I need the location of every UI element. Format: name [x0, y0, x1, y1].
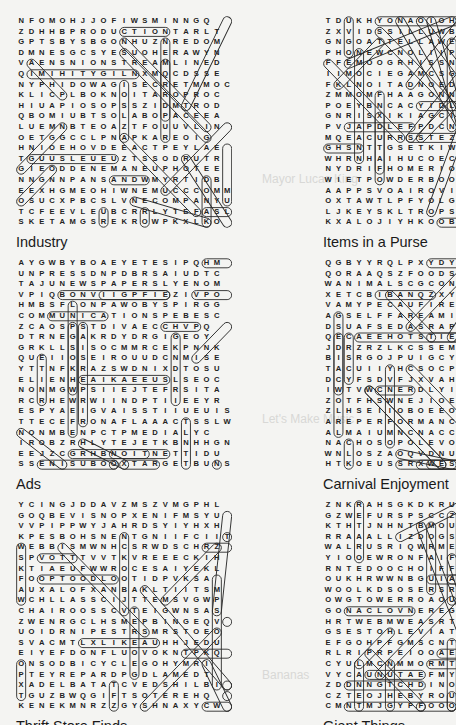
grid-letter: E: [67, 670, 77, 681]
grid-letter: P: [26, 553, 36, 564]
grid-letter: L: [344, 449, 354, 460]
grid-letter: Z: [98, 701, 108, 712]
grid-letter: E: [170, 133, 180, 144]
grid-letter: S: [160, 680, 170, 691]
grid-letter: R: [333, 417, 343, 428]
grid-letter: S: [374, 438, 384, 449]
grid-letter: M: [119, 617, 129, 628]
grid-letter: P: [37, 269, 47, 280]
grid-letter: E: [181, 279, 191, 290]
grid-letter: K: [364, 585, 374, 596]
grid-letter: T: [344, 196, 354, 207]
grid-letter: I: [140, 27, 150, 38]
grid-letter: B: [129, 269, 139, 280]
grid-letter: W: [333, 595, 343, 606]
grid-letter: I: [374, 69, 384, 80]
grid-letter: A: [78, 175, 88, 186]
grid-letter: I: [67, 69, 77, 80]
grid-letter: E: [37, 459, 47, 470]
grid-letter: N: [140, 311, 150, 322]
grid-letter: I: [395, 532, 405, 543]
grid-letter: P: [129, 290, 139, 301]
grid-letter: S: [88, 606, 98, 617]
grid-letter: F: [364, 511, 374, 522]
grid-letter: D: [160, 542, 170, 553]
grid-letter: I: [181, 585, 191, 596]
grid-letter: R: [88, 701, 98, 712]
grid-letter: E: [201, 111, 211, 122]
grid-letter: B: [57, 37, 67, 48]
grid-letter: E: [88, 353, 98, 364]
grid-letter: E: [47, 375, 57, 386]
grid-letter: E: [57, 417, 67, 428]
grid-letter: D: [191, 269, 201, 280]
grid-letter: S: [98, 196, 108, 207]
grid-letter: O: [323, 595, 333, 606]
grid-letter: H: [354, 574, 364, 585]
grid-letter: V: [26, 521, 36, 532]
grid-letter: E: [344, 58, 354, 69]
grid-letter: H: [405, 564, 415, 575]
grid-letter: B: [405, 691, 415, 702]
grid-letter: B: [88, 459, 98, 470]
grid-letter: M: [222, 186, 232, 197]
grid-letter: K: [170, 343, 180, 354]
grid-letter: B: [78, 111, 88, 122]
grid-letter: T: [447, 659, 456, 670]
grid-letter: W: [212, 701, 222, 712]
grid-letter: P: [323, 48, 333, 59]
grid-letter: F: [385, 417, 395, 428]
grid-letter: G: [98, 37, 108, 48]
grid-letter: G: [323, 627, 333, 638]
grid-letter: I: [26, 69, 36, 80]
grid-letter: Y: [364, 207, 374, 218]
grid-letter: Z: [323, 27, 333, 38]
grid-letter: U: [37, 196, 47, 207]
grid-letter: C: [47, 638, 57, 649]
grid-letter: A: [323, 186, 333, 197]
grid-letter: B: [447, 27, 456, 38]
grid-row: OETGGCCLPNAPKAREOIG: [16, 133, 232, 144]
grid-row: EEJZCGRHBNOITNETTIDU: [16, 449, 232, 460]
grid-row: VYCAUNUTAEFMYI: [323, 670, 456, 681]
grid-letter: H: [364, 154, 374, 165]
grid-row: DSUAFSEDASRAPD: [323, 322, 456, 333]
grid-letter: S: [222, 459, 232, 470]
grid-letter: O: [374, 353, 384, 364]
grid-letter: N: [67, 311, 77, 322]
grid-letter: I: [426, 396, 436, 407]
grid-letter: D: [212, 58, 222, 69]
grid-letter: W: [191, 48, 201, 59]
grid-letter: U: [16, 627, 26, 638]
grid-letter: D: [333, 680, 343, 691]
grid-letter: T: [181, 364, 191, 375]
grid-letter: J: [344, 122, 354, 133]
grid-letter: W: [140, 175, 150, 186]
grid-letter: G: [344, 638, 354, 649]
grid-row: SSENISUBOOXTARGETBUNS: [16, 459, 232, 470]
grid-letter: S: [16, 553, 26, 564]
grid-letter: N: [354, 48, 364, 59]
grid-letter: M: [67, 217, 77, 228]
grid-letter: I: [78, 311, 88, 322]
grid-letter: C: [405, 279, 415, 290]
grid-letter: I: [160, 396, 170, 407]
grid-letter: O: [374, 564, 384, 575]
grid-letter: N: [374, 670, 384, 681]
grid-letter: Z: [16, 27, 26, 38]
grid-letter: E: [119, 143, 129, 154]
grid-letter: I: [57, 542, 67, 553]
grid-letter: A: [436, 375, 446, 386]
grid-letter: O: [447, 406, 456, 417]
grid-letter: Y: [98, 659, 108, 670]
grid-letter: Q: [201, 16, 211, 27]
grid-letter: I: [160, 428, 170, 439]
grid-letter: O: [333, 101, 343, 112]
grid-letter: I: [150, 290, 160, 301]
grid-letter: I: [170, 396, 180, 407]
grid-letter: L: [88, 133, 98, 144]
grid-letter: X: [16, 680, 26, 691]
grid-letter: S: [98, 606, 108, 617]
grid-letter: L: [212, 500, 222, 511]
grid-letter: O: [67, 585, 77, 596]
